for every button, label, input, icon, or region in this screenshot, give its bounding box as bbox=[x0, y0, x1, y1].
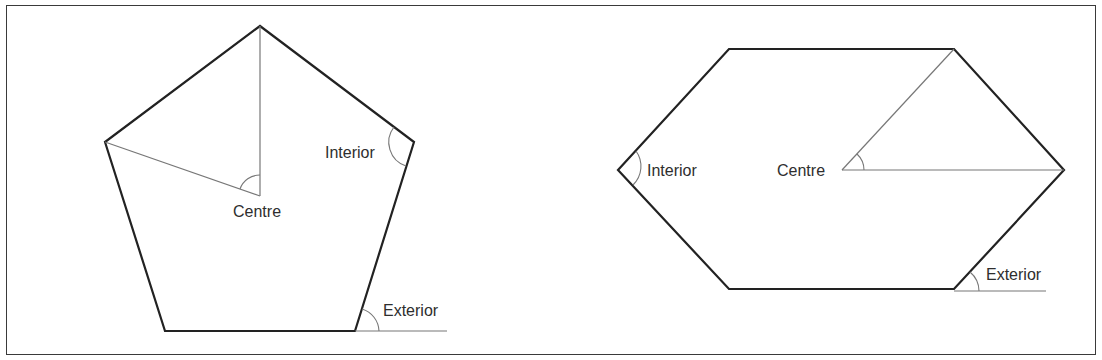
pentagon-centre-angle-arc bbox=[240, 175, 260, 189]
pentagon-exterior-angle-arc bbox=[362, 309, 379, 331]
hexagon-interior-label: Interior bbox=[647, 163, 697, 179]
pentagon-centre-label: Centre bbox=[233, 204, 281, 220]
hexagon-radius-top bbox=[842, 49, 954, 170]
hexagon-exterior-angle-arc bbox=[970, 272, 979, 291]
pentagon-radius-left bbox=[105, 142, 260, 196]
polygon-angles-diagram bbox=[0, 0, 1102, 360]
pentagon-figure bbox=[105, 26, 447, 331]
pentagon-interior-label: Interior bbox=[325, 145, 375, 161]
hexagon-interior-angle-arc bbox=[633, 151, 641, 185]
hexagon-exterior-label: Exterior bbox=[986, 267, 1041, 283]
pentagon-exterior-label: Exterior bbox=[383, 303, 438, 319]
hexagon-centre-angle-arc bbox=[857, 154, 864, 170]
hexagon-centre-label: Centre bbox=[777, 163, 825, 179]
